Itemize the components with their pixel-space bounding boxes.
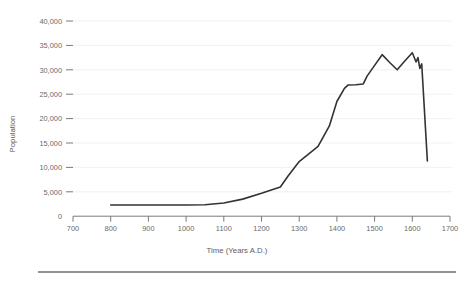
y-tick-label-0: 0 xyxy=(58,212,62,221)
y-tick-label-10000: 10,000 xyxy=(39,163,62,172)
population-chart-figure: 05,00010,00015,00020,00025,00030,00035,0… xyxy=(0,0,475,283)
x-axis-title: Time (Years A.D.) xyxy=(207,246,268,255)
x-tick-label-1000: 1000 xyxy=(178,224,194,233)
x-tick-label-1500: 1500 xyxy=(366,224,382,233)
y-tick-label-5000: 5,000 xyxy=(44,188,63,197)
x-tick-label-1600: 1600 xyxy=(404,224,420,233)
y-tick-label-40000: 40,000 xyxy=(39,17,62,26)
x-tick-label-800: 800 xyxy=(105,224,117,233)
x-tick-label-900: 900 xyxy=(142,224,154,233)
x-tick-label-1200: 1200 xyxy=(253,224,269,233)
y-tick-labels-group: 05,00010,00015,00020,00025,00030,00035,0… xyxy=(39,17,62,221)
y-tick-label-35000: 35,000 xyxy=(39,41,62,50)
y-tick-label-25000: 25,000 xyxy=(39,90,62,99)
y-tick-label-20000: 20,000 xyxy=(39,114,62,123)
x-tick-label-1400: 1400 xyxy=(329,224,345,233)
y-axis-title: Population xyxy=(8,116,17,153)
y-tick-marks-group xyxy=(66,21,73,192)
population-line-series xyxy=(111,53,428,205)
gridlines-group xyxy=(73,21,452,192)
x-tick-marks-group xyxy=(73,216,450,222)
x-tick-label-1700: 1700 xyxy=(442,224,458,233)
x-tick-label-700: 700 xyxy=(67,224,79,233)
y-tick-label-30000: 30,000 xyxy=(39,66,62,75)
y-tick-label-15000: 15,000 xyxy=(39,139,62,148)
chart-canvas: 05,00010,00015,00020,00025,00030,00035,0… xyxy=(0,0,475,283)
x-tick-label-1100: 1100 xyxy=(216,224,232,233)
x-tick-labels-group: 7008009001000110012001300140015001600170… xyxy=(67,224,458,233)
x-tick-label-1300: 1300 xyxy=(291,224,307,233)
